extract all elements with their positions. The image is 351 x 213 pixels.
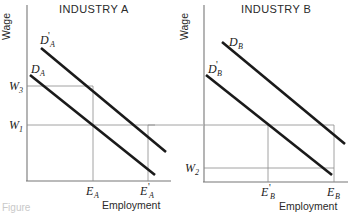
panel-a-label-d-prime-a-sub: A (49, 40, 55, 49)
economics-figure: INDUSTRY A Wage D ' A D (0, 0, 351, 213)
panel-b-label-d-b-sub: B (238, 42, 243, 51)
panel-a-label-d-a-sub: A (39, 69, 45, 78)
panel-b-ytick-w2: W 2 (185, 161, 199, 177)
panel-a-xtick-ea-sub: A (93, 191, 99, 200)
panel-b-xtick-eb-letter: E (326, 185, 335, 199)
panel-b-label-d-prime-b-sub: B (217, 69, 222, 78)
panel-a-label-d-a-letter: D (30, 62, 40, 76)
panel-a-y-axis-label: Wage (0, 13, 12, 40)
panel-b-label-d-prime-b: D ' B (207, 59, 222, 78)
panel-a-ytick-w1: W 1 (9, 118, 23, 134)
panel-b-xtick-eb-prime: E ' B (260, 182, 275, 201)
figure-canvas: INDUSTRY A Wage D ' A D (0, 0, 351, 213)
panel-b-label-d-b-letter: D (228, 35, 238, 49)
panel-a-xtick-ea-prime: E ' A (139, 181, 154, 200)
panel-a-label-d-prime-a: D ' A (39, 30, 55, 49)
panel-b-curve-d (222, 42, 345, 144)
panel-b-label-d-b: D B (228, 35, 243, 51)
panel-a-xtick-ea: E A (85, 184, 99, 200)
panel-b-ytick-w2-sub: 2 (195, 168, 199, 177)
panel-a-ytick-w3: W 3 (9, 79, 23, 95)
panel-a-xtick-ea-letter: E (85, 184, 94, 198)
panel-b-x-axis-label: Employment (279, 200, 337, 212)
panel-b-title: INDUSTRY B (241, 3, 311, 15)
panel-a-x-axis-label: Employment (102, 199, 160, 211)
panel-industry-b: INDUSTRY B Wage D B D ' B (178, 3, 348, 212)
panel-b-xtick-eb: E B (326, 185, 340, 201)
panel-a-label-d-a: D A (30, 62, 45, 78)
panel-b-xtick-eb-prime-letter: E (260, 185, 269, 199)
figure-caption-partial: Figure (2, 202, 31, 213)
panel-b-xtick-eb-prime-sub: B (270, 192, 275, 201)
panel-a-ytick-w3-sub: 3 (18, 86, 23, 95)
panel-industry-a: INDUSTRY A Wage D ' A D (0, 3, 203, 211)
panel-b-y-axis-label: Wage (178, 13, 190, 40)
panel-a-title: INDUSTRY A (59, 3, 129, 15)
panel-a-xtick-ea-prime-letter: E (139, 184, 148, 198)
panel-a-ytick-w1-sub: 1 (19, 125, 23, 134)
